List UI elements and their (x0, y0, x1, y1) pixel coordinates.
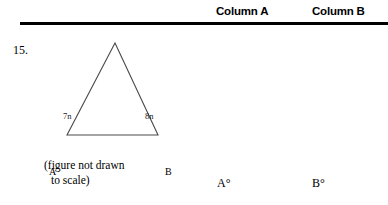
triangle-svg (0, 30, 200, 150)
vertex-label-b: B (165, 166, 172, 177)
figure-caption-line-2: to scale) (44, 173, 124, 188)
triangle-figure: 7n 8n A B (0, 30, 200, 150)
column-b-value: B° (312, 176, 325, 191)
column-a-value: A° (217, 176, 230, 191)
figure-caption-line-1: (figure not drawn (44, 158, 124, 173)
column-a-header: Column A (216, 5, 268, 17)
header-divider-rule (20, 22, 388, 25)
column-b-header: Column B (312, 5, 365, 17)
triangle-outline (67, 43, 158, 135)
side-label-right: 8n (145, 111, 154, 121)
question-panel: Column A Column B 15. 7n 8n A B (figure … (0, 0, 388, 205)
figure-caption: (figure not drawn to scale) (44, 158, 124, 188)
side-label-left: 7n (63, 111, 72, 121)
